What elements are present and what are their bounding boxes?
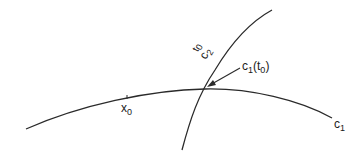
curve-c2 (182, 10, 272, 150)
diagram-canvas: x0 c2 t0 c1(t0) c1 (0, 0, 361, 156)
label-x0: x0 (121, 101, 132, 117)
label-intersection: c1(t0) (242, 59, 269, 75)
label-c1: c1 (334, 117, 345, 133)
curve-c1 (26, 89, 332, 129)
